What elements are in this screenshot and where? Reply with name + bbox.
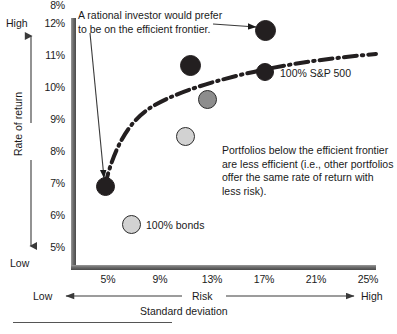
- x-tick-21: 21%: [296, 274, 336, 285]
- footer-divider: [13, 322, 172, 323]
- legend-label-sp500: 100% S&P 500: [280, 67, 351, 79]
- below-frontier-note-line1: Portfolios below the efficient frontier: [222, 144, 393, 158]
- y-tick-8b: 8%: [25, 146, 65, 157]
- below-frontier-note: Portfolios below the efficient frontier …: [222, 144, 393, 198]
- data-point-inefficient-mid[interactable]: [198, 90, 217, 109]
- y-tick-11: 11%: [25, 50, 65, 61]
- below-frontier-note-line2: are less efficient (i.e., other portfoli…: [222, 158, 393, 172]
- y-axis-title: Rate of return: [12, 79, 24, 169]
- x-tick-13: 13%: [192, 274, 232, 285]
- x-tick-17: 17%: [244, 274, 284, 285]
- y-tick-5: 5%: [25, 242, 65, 253]
- data-point-inefficient-light[interactable]: [176, 127, 195, 146]
- legend-label-bonds: 100% bonds: [146, 219, 204, 231]
- x-axis-risk-label: Risk: [188, 290, 216, 302]
- x-axis-high-label: High: [361, 290, 383, 302]
- x-axis-low-label: Low: [33, 290, 52, 302]
- data-point-sp500[interactable]: [255, 20, 276, 41]
- x-tick-9: 9%: [140, 274, 180, 285]
- y-axis-line: [71, 18, 76, 270]
- below-frontier-note-line3: offer the same rate of return with: [222, 171, 393, 185]
- y-tick-6: 6%: [25, 210, 65, 221]
- x-axis-line: [71, 265, 376, 270]
- below-frontier-note-line4: less risk).: [222, 185, 393, 199]
- x-tick-25: 25%: [348, 274, 388, 285]
- rational-investor-note-line2: to be on the efficient frontier.: [78, 23, 222, 37]
- y-tick-8: 8%: [25, 0, 65, 11]
- y-tick-7: 7%: [25, 178, 65, 189]
- x-tick-5: 5%: [88, 274, 128, 285]
- rational-investor-note-line1: A rational investor would prefer: [78, 9, 222, 23]
- efficient-frontier-chart: High Low Rate of return 12% 11% 10% 9% 8…: [0, 0, 397, 334]
- y-tick-10: 10%: [25, 82, 65, 93]
- data-point-frontier-mid[interactable]: [180, 55, 201, 76]
- y-axis-low-label: Low: [10, 257, 29, 269]
- legend-marker-sp500: [256, 63, 274, 81]
- rational-investor-note: A rational investor would prefer to be o…: [78, 9, 222, 36]
- y-tick-12: 12%: [25, 18, 65, 29]
- data-point-frontier-low-risk[interactable]: [96, 177, 115, 196]
- data-point-bonds[interactable]: [122, 215, 141, 234]
- y-tick-9: 9%: [25, 114, 65, 125]
- x-axis-title: Standard deviation: [140, 305, 228, 317]
